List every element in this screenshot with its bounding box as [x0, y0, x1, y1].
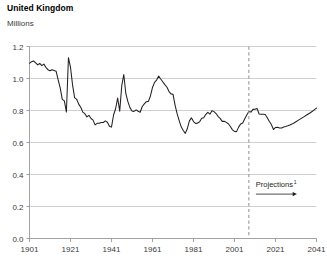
x-tick-label: 1921	[62, 245, 80, 254]
series-line-births	[30, 58, 317, 134]
y-tick-label: 0.0	[12, 235, 24, 244]
y-axis	[27, 47, 30, 239]
x-tick-label: 2001	[226, 245, 244, 254]
y-tick-label: 0.6	[12, 139, 24, 148]
y-tick-labels: 0.00.20.40.60.81.01.2	[12, 43, 24, 244]
y-tick-label: 1.2	[12, 43, 24, 52]
x-tick-label: 2021	[267, 245, 285, 254]
y-tick-label: 1.0	[12, 75, 24, 84]
chart-root: United Kingdom Millions 0.00.20.40.60.81…	[0, 0, 327, 257]
data-series-births	[30, 58, 317, 134]
y-tick-label: 0.2	[12, 203, 24, 212]
y-tick-label: 0.4	[12, 171, 24, 180]
x-tick-label: 2041	[308, 245, 326, 254]
x-axis	[30, 239, 317, 243]
x-tick-label: 1981	[185, 245, 203, 254]
projections-arrow-head	[293, 192, 297, 196]
x-tick-label: 1941	[103, 245, 121, 254]
projections-label: Projections	[256, 180, 293, 189]
x-tick-labels: 19011921194119611981200120212041	[21, 245, 326, 254]
projections-annotation: Projections1	[256, 179, 297, 197]
y-tick-label: 0.8	[12, 107, 24, 116]
projections-footnote-marker: 1	[294, 179, 297, 185]
x-tick-label: 1901	[21, 245, 39, 254]
line-chart-plot: 0.00.20.40.60.81.01.2 190119211941196119…	[0, 0, 327, 257]
x-tick-label: 1961	[144, 245, 162, 254]
